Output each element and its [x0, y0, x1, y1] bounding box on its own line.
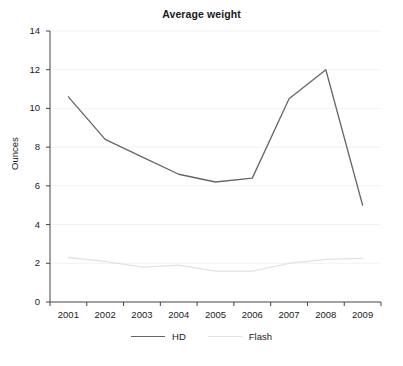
y-tick-label: 8	[14, 141, 40, 152]
x-tick-label: 2003	[122, 309, 162, 320]
legend-line-swatch-hd	[131, 336, 165, 337]
y-axis-ticks	[46, 31, 50, 302]
series-line-hd	[68, 70, 362, 206]
chart-container: Average weight Ounces 02468101214 200120…	[0, 0, 403, 366]
x-tick-label: 2009	[343, 309, 383, 320]
x-tick-label: 2001	[48, 309, 88, 320]
y-tick-label: 0	[14, 296, 40, 307]
series-lines	[68, 70, 362, 271]
x-axis-ticks	[50, 302, 381, 306]
series-line-flash	[68, 257, 362, 271]
y-tick-label: 10	[14, 102, 40, 113]
legend-line-swatch-flash	[208, 336, 242, 337]
x-tick-label: 2006	[232, 309, 272, 320]
legend-item-flash[interactable]: Flash	[208, 331, 272, 342]
y-tick-label: 2	[14, 257, 40, 268]
x-tick-label: 2002	[85, 309, 125, 320]
y-tick-label: 12	[14, 64, 40, 75]
x-tick-label: 2008	[306, 309, 346, 320]
legend-label: HD	[172, 331, 186, 342]
y-tick-label: 6	[14, 180, 40, 191]
x-tick-label: 2005	[196, 309, 236, 320]
chart-legend: HDFlash	[0, 331, 403, 342]
y-tick-label: 4	[14, 219, 40, 230]
legend-item-hd[interactable]: HD	[131, 331, 186, 342]
x-tick-label: 2007	[269, 309, 309, 320]
gridlines	[50, 31, 381, 263]
x-tick-label: 2004	[159, 309, 199, 320]
legend-label: Flash	[249, 331, 272, 342]
y-tick-label: 14	[14, 25, 40, 36]
